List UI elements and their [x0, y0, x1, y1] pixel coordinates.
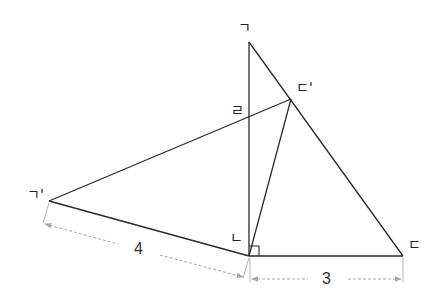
label-point-C-prime: ㄷ': [296, 80, 313, 94]
segment-Aprime-Cprime: [49, 99, 291, 201]
diagram-canvas: [0, 0, 438, 300]
dimension-label-Aprime-B: 4: [134, 241, 143, 257]
segment-B-Cprime: [249, 99, 291, 256]
segment-Aprime-B: [49, 201, 249, 256]
label-point-D: ㄹ: [231, 103, 244, 117]
label-point-C: ㄷ: [408, 237, 421, 251]
dimension-line-Aprime-B-part1: [45, 224, 118, 244]
dimension-label-B-C: 3: [322, 271, 331, 287]
dimension-line-Aprime-B-part2: [160, 255, 243, 277]
label-point-A: ㄱ: [238, 20, 251, 34]
extension-line-Aprime: [43, 203, 49, 223]
extension-line-B-left: [243, 258, 249, 278]
segment-A-C: [249, 42, 403, 256]
label-point-B: ㄴ: [230, 230, 243, 244]
label-point-A-prime: ㄱ': [27, 187, 44, 201]
